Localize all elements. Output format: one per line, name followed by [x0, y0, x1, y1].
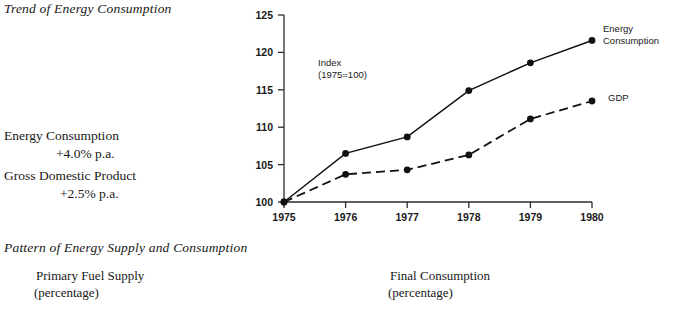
- data-point: [589, 98, 596, 105]
- caption-final-title: Final Consumption: [390, 268, 490, 283]
- x-axis: 197519761977197819791980: [272, 202, 604, 223]
- section-heading-trend: Trend of Energy Consumption: [4, 1, 172, 17]
- y-tick-label: 100: [255, 196, 273, 208]
- annotation-index: Index (1975=100): [318, 57, 367, 80]
- data-point: [342, 171, 349, 178]
- x-axis-tick-labels: 197519761977197819791980: [272, 211, 604, 223]
- y-tick-label: 105: [255, 159, 273, 171]
- x-tick-label: 1976: [334, 211, 358, 223]
- stat-energy-label: Energy Consumption: [4, 128, 119, 143]
- caption-primary-title: Primary Fuel Supply: [36, 268, 144, 283]
- x-tick-label: 1979: [519, 211, 543, 223]
- series-line-gdp: [284, 101, 592, 202]
- y-tick-label: 125: [255, 9, 273, 21]
- x-tick-label: 1977: [396, 211, 420, 223]
- annotation-index-line1: Index: [318, 57, 341, 68]
- data-point: [589, 37, 596, 44]
- annotation-index-line2: (1975=100): [318, 69, 367, 80]
- data-point: [342, 150, 349, 157]
- stat-gross-domestic-product: Gross Domestic Product +2.5% p.a.: [4, 167, 136, 203]
- series-label-energy-line2: Consumption: [603, 35, 659, 46]
- stat-gdp-label: Gross Domestic Product: [4, 168, 136, 183]
- caption-final-sub: (percentage): [388, 285, 490, 302]
- caption-primary-sub: (percentage): [34, 285, 144, 302]
- data-point: [404, 134, 411, 141]
- data-point: [281, 199, 288, 206]
- y-axis-ticks: [278, 15, 284, 202]
- stat-energy-rate: +4.0% p.a.: [4, 145, 119, 163]
- data-point: [465, 87, 472, 94]
- data-point: [527, 116, 534, 123]
- data-point: [527, 59, 534, 66]
- series-label-gdp: GDP: [608, 92, 629, 103]
- x-axis-ticks: [284, 202, 592, 208]
- data-point: [465, 151, 472, 158]
- x-tick-label: 1975: [272, 211, 296, 223]
- stat-energy-consumption: Energy Consumption +4.0% p.a.: [4, 127, 119, 163]
- x-tick-label: 1978: [457, 211, 481, 223]
- document-page: Trend of Energy Consumption Energy Consu…: [0, 0, 675, 309]
- data-point: [404, 166, 411, 173]
- x-tick-label: 1980: [580, 211, 604, 223]
- stat-gdp-rate: +2.5% p.a.: [4, 185, 136, 203]
- series-label-energy-line1: Energy: [603, 23, 633, 34]
- series-labels: Energy Consumption GDP: [603, 23, 659, 103]
- y-axis: 100105110115120125: [255, 9, 284, 208]
- caption-primary-fuel-supply: Primary Fuel Supply (percentage): [36, 268, 144, 302]
- trend-line-chart: 100105110115120125 197519761977197819791…: [240, 0, 675, 232]
- y-tick-label: 115: [256, 84, 273, 96]
- section-heading-pattern: Pattern of Energy Supply and Consumption: [4, 240, 247, 256]
- y-tick-label: 110: [256, 121, 273, 133]
- caption-final-consumption: Final Consumption (percentage): [390, 268, 490, 302]
- y-tick-label: 120: [255, 46, 273, 58]
- chart-svg: 100105110115120125 197519761977197819791…: [240, 0, 675, 232]
- y-axis-tick-labels: 100105110115120125: [255, 9, 273, 208]
